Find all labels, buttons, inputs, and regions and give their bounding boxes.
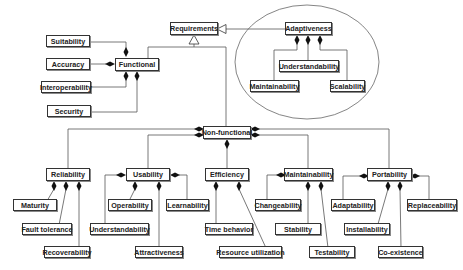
security-box: Security [47,105,91,117]
replaceability-box: Replaceability [407,199,457,211]
time-behavior-box: Time behavior [205,223,253,235]
understandability-box: Understandability [90,223,149,235]
accuracy-box: Accuracy [46,58,90,70]
reliability-box: Reliability [46,168,90,181]
scalability-box: Scalability [330,80,365,92]
generalization-arrow-down [189,35,199,44]
maintainability-box: Maintainability [284,168,333,181]
adaptiveness-maintainability-box: Maintainability [250,80,299,92]
efficiency-box: Efficiency [205,168,249,181]
co-existence-box: Co-existence [378,246,423,258]
non-functional-box: Non-functional [203,126,251,139]
fault-tolerance-box: Fault tolerance [22,223,72,235]
requirements-box: Requirements [170,22,218,35]
changeability-box: Changeability [255,199,301,211]
adaptiveness-box: Adaptiveness [285,22,332,35]
stability-box: Stability [275,223,321,235]
learnability-box: Learnability [166,199,209,211]
operability-box: Operability [108,199,152,211]
adaptability-box: Adaptability [331,199,375,211]
testability-box: Testability [309,246,355,258]
maturity-box: Maturity [13,199,57,211]
interoperability-box: Interoperability [41,81,91,93]
functional-box: Functional [115,58,159,71]
suitability-box: Suitability [46,35,90,47]
portability-box: Portability [367,168,412,181]
attractiveness-box: Attractiveness [135,246,183,258]
adaptiveness-understandability-box: Understandability [279,60,339,72]
recoverability-box: Recoverability [44,246,90,258]
generalization-arrow-right [217,25,226,34]
usability-box: Usability [126,168,170,181]
resource-utilization-box: Resource utilization [219,246,282,258]
installability-box: Installability [344,223,390,235]
